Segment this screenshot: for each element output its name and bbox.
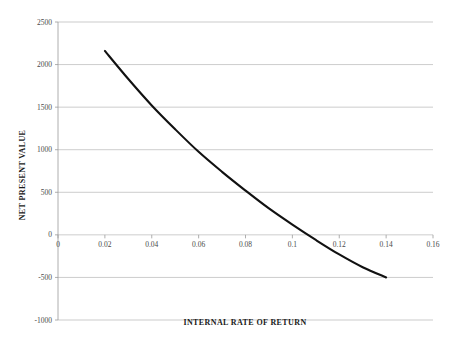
x-tick-label: 0 [56,240,60,249]
y-tick-label: 2500 [37,18,52,27]
x-tick-label: 0.04 [145,240,158,249]
x-axis-title: INTERNAL RATE OF RETURN [183,318,306,327]
y-tick-label: -500 [38,273,52,282]
x-tick-label: 0.02 [98,240,111,249]
y-tick-label: 2000 [37,60,52,69]
y-tick-label: 500 [41,188,53,197]
y-tick-label: 0 [48,230,52,239]
y-tick-label: -1000 [35,316,53,325]
y-axis-tick-labels: 25002000150010005000-500-1000 [35,18,53,325]
x-tick-label: 0.06 [192,240,205,249]
y-axis-title: NET PRESENT VALUE [18,130,27,221]
chart-canvas: 00.020.040.060.080.10.120.140.16 2500200… [0,0,457,341]
npv-profile-chart: 00.020.040.060.080.10.120.140.16 2500200… [0,0,457,341]
x-tick-label: 0.1 [288,240,298,249]
y-axis-tick-marks [55,22,58,320]
x-tick-label: 0.12 [333,240,346,249]
x-tick-label: 0.16 [426,240,439,249]
plot-area-background [58,22,433,320]
y-tick-label: 1500 [37,103,52,112]
x-tick-label: 0.14 [380,240,393,249]
x-tick-label: 0.08 [239,240,252,249]
y-tick-label: 1000 [37,145,52,154]
